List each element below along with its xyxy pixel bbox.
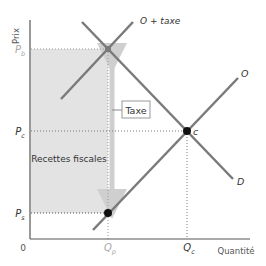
tax-revenue-area	[31, 49, 108, 213]
seller-price-point	[104, 209, 112, 217]
ps-label: Ps	[15, 208, 25, 222]
qp-label: Qp	[104, 242, 116, 256]
x-axis-label: Quantité	[218, 246, 255, 256]
pc-label: Pc	[15, 126, 25, 140]
equilibrium-point	[183, 127, 191, 135]
tax-intersection-point	[105, 46, 111, 52]
demand-label: D	[237, 176, 244, 187]
tax-label: Taxe	[124, 105, 146, 116]
supply-label: O	[241, 68, 249, 79]
revenue-label: Recettes fiscales	[31, 154, 107, 164]
pb-label: Pb	[15, 44, 25, 58]
origin-label: 0	[20, 243, 26, 253]
qc-label: Qc	[183, 242, 195, 256]
tax-incidence-diagram: Taxe Recettes fiscales Prix Quantité 0 P…	[0, 0, 266, 266]
supply-curve	[93, 78, 238, 230]
y-axis-label: Prix	[11, 28, 21, 44]
supply-with-tax-label: O + taxe	[140, 16, 181, 26]
equilibrium-label: c	[193, 126, 199, 137]
